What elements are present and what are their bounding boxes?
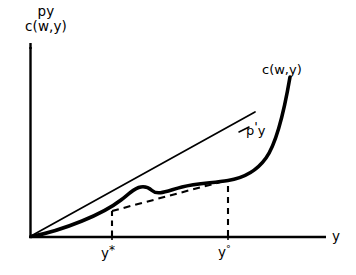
tick-label-y-zero-superscript: ° <box>226 243 231 254</box>
revenue-line-label: p'y <box>246 120 266 138</box>
y-axis-label: py c(w,y) <box>14 4 78 33</box>
tick-label-y-zero: y° <box>218 244 231 260</box>
revenue-line-p-prime-y <box>31 112 255 236</box>
tick-label-y-star-superscript: * <box>109 243 115 257</box>
tick-label-y-star: y* <box>101 244 115 261</box>
tick-label-y-zero-base: y <box>218 244 226 260</box>
tick-label-y-star-base: y <box>101 245 109 261</box>
cost-curve-group <box>31 77 290 237</box>
y-axis-label-line2: c(w,y) <box>14 19 78 34</box>
dashed-construction-group <box>112 180 228 236</box>
cost-curve-label: c(w,y) <box>262 63 302 77</box>
y-axis-label-line1: py <box>14 4 78 19</box>
x-axis-label: y <box>332 229 340 244</box>
cost-curve-c-w-y <box>31 77 290 237</box>
plot-canvas <box>0 0 356 275</box>
revenue-line-label-y: y <box>258 123 266 138</box>
revenue-line-group <box>31 112 255 236</box>
economics-cost-curve-figure: py c(w,y) c(w,y) p'y y y* y° <box>0 0 356 275</box>
